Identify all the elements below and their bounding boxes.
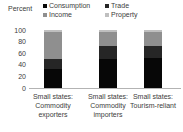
legend-swatch-consumption: [43, 4, 47, 8]
y-axis-title: Percent: [8, 5, 32, 12]
bar-small-states-commodity-exporters: [44, 30, 62, 88]
legend-label: Consumption: [49, 2, 90, 10]
bar-segment-income: [99, 32, 117, 46]
legend-label: Trade: [111, 2, 129, 10]
legend-item-consumption: Consumption: [43, 2, 105, 10]
legend-item-property: Property: [105, 11, 137, 19]
legend-label: Property: [111, 11, 137, 19]
y-tick-20: 20: [6, 73, 26, 80]
bar-segment-consumption: [144, 58, 162, 88]
bar-small-states-commodity-importers: [99, 30, 117, 88]
bar-segment-income: [144, 32, 162, 46]
bar-small-states-tourism-reliant: [144, 30, 162, 88]
x-label-small-states-tourism-reliant: Small states:Tourism-reliant: [122, 92, 183, 110]
legend-swatch-property: [105, 13, 109, 17]
chart-legend: ConsumptionTradeIncomeProperty: [43, 2, 137, 19]
bar-segment-trade: [44, 59, 62, 69]
x-label-line: Tourism-reliant: [122, 101, 183, 110]
x-label-line: exporters: [22, 110, 84, 119]
bar-segment-trade: [144, 46, 162, 58]
legend-label: Income: [49, 11, 72, 19]
x-label-line: Small states:: [122, 92, 183, 101]
x-label-line: Commodity: [22, 101, 84, 110]
bar-segment-consumption: [99, 59, 117, 88]
bar-segment-consumption: [44, 69, 62, 88]
legend-item-income: Income: [43, 11, 105, 19]
bar-segment-income: [44, 32, 62, 59]
stacked-bar-chart: Percent ConsumptionTradeIncomeProperty 1…: [0, 0, 183, 132]
y-tick-60: 60: [6, 50, 26, 57]
bar-segment-trade: [99, 46, 117, 59]
x-label-line: Small states:: [22, 92, 84, 101]
legend-swatch-trade: [105, 4, 109, 8]
x-axis-line: [29, 88, 181, 89]
y-tick-100: 100: [6, 27, 26, 34]
legend-swatch-income: [43, 13, 47, 17]
legend-item-trade: Trade: [105, 2, 137, 10]
y-tick-80: 80: [6, 38, 26, 45]
x-label-line: importers: [77, 110, 139, 119]
x-label-small-states-commodity-exporters: Small states:Commodityexporters: [22, 92, 84, 119]
y-tick-0: 0: [6, 85, 26, 92]
y-tick-40: 40: [6, 61, 26, 68]
